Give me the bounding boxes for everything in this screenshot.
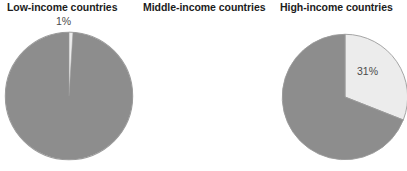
pie-panel-high-income: High-income countries 68% (276, 0, 407, 171)
panel-title-low-income: Low-income countries (0, 1, 140, 13)
pie-chart-low-income (4, 31, 134, 161)
panel-title-middle-income: Middle-income countries (140, 1, 276, 13)
pie-svg-low-income (4, 31, 134, 161)
pie-panel-middle-income: Middle-income countries 31% (140, 0, 276, 171)
pie-label-low-income: 1% (56, 15, 71, 27)
pie-panel-low-income: Low-income countries 1% (0, 0, 140, 171)
panel-title-high-income: High-income countries (276, 1, 407, 13)
